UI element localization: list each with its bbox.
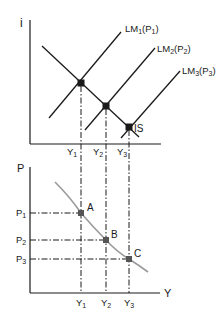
lm3-label: LM3(P3)	[182, 65, 216, 77]
point-a-label: A	[87, 202, 94, 213]
bottom-x-tick-y1: Y1	[76, 297, 86, 309]
top-x-tick-y3: Y3	[117, 146, 127, 158]
point-b-label: B	[111, 229, 118, 240]
point-c-label: C	[134, 248, 141, 259]
lm2-curve	[85, 48, 155, 130]
bottom-x-tick-y3: Y3	[124, 297, 134, 309]
top-x-tick-y1: Y1	[67, 146, 77, 158]
bottom-x-tick-y2: Y2	[101, 297, 111, 309]
lm1-label: LM1(P1)	[125, 23, 159, 35]
p-tick-p1: P1	[16, 207, 26, 219]
p-tick-p2: P2	[16, 234, 26, 246]
equilibrium-point-3	[126, 124, 133, 131]
is-lm-ad-diagram: i LM1(P1) LM2(P2) LM3(P3) IS Y1 Y2 Y3	[0, 0, 224, 317]
top-panel: i LM1(P1) LM2(P2) LM3(P3) IS Y1 Y2 Y3	[20, 16, 216, 158]
lm2-label: LM2(P2)	[157, 43, 191, 55]
p-tick-p3: P3	[16, 253, 26, 265]
equilibrium-point-2	[103, 103, 110, 110]
top-y-axis-label: i	[20, 16, 23, 30]
vertical-guides	[81, 86, 129, 293]
bottom-x-axis-label: Y	[164, 287, 172, 299]
point-b	[103, 237, 109, 243]
top-x-tick-y2: Y2	[93, 146, 103, 158]
point-c	[126, 256, 132, 262]
equilibrium-point-1	[78, 80, 85, 87]
point-a	[78, 210, 84, 216]
is-label: IS	[134, 123, 144, 134]
lm1-curve	[49, 32, 121, 118]
bottom-panel: P Y A B C P1 P2 P3 Y1 Y2 Y3	[16, 162, 172, 309]
bottom-y-axis-label: P	[17, 162, 24, 174]
